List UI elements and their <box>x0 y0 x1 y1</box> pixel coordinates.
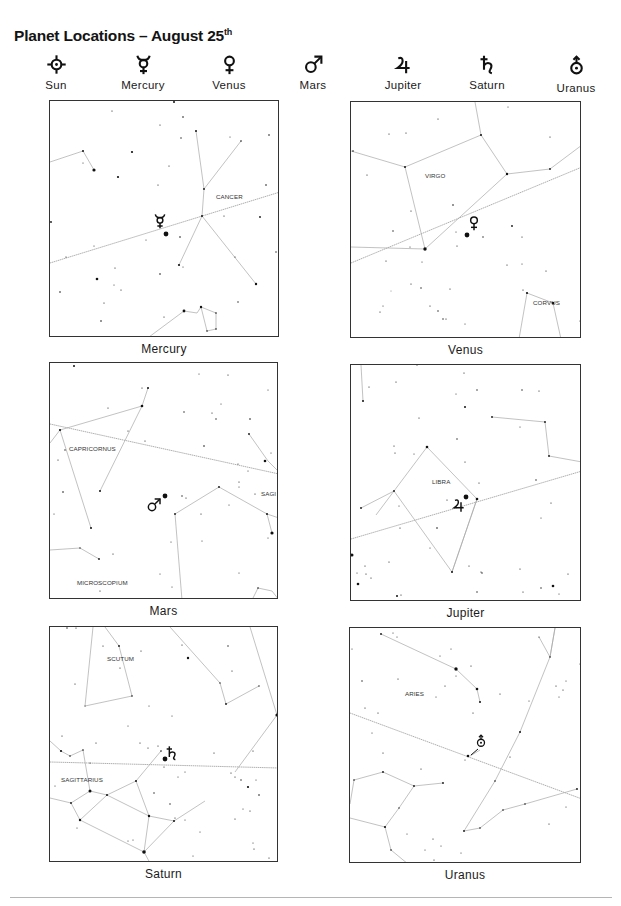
star <box>405 132 406 133</box>
star <box>545 270 546 271</box>
star <box>157 184 158 185</box>
legend-label: Jupiter <box>363 79 443 91</box>
star <box>69 755 71 757</box>
star <box>567 573 568 574</box>
star <box>249 810 250 811</box>
constellation-line <box>85 627 132 706</box>
star <box>153 792 154 793</box>
star <box>225 703 227 705</box>
constellation-line <box>464 628 555 831</box>
star <box>59 291 61 293</box>
star <box>168 165 169 166</box>
star <box>182 116 184 118</box>
star <box>456 245 457 246</box>
star-chart-mercury: CANCER <box>49 100 279 337</box>
star <box>173 101 175 103</box>
planet-position-dot <box>465 233 470 238</box>
star <box>200 513 201 514</box>
star <box>114 285 115 286</box>
star <box>420 287 421 288</box>
uranus-symbol-icon <box>536 55 616 77</box>
star <box>418 417 419 418</box>
star <box>74 683 75 684</box>
star <box>422 262 423 263</box>
star <box>365 573 366 574</box>
star <box>360 507 362 509</box>
constellation-label: CANCER <box>216 193 243 200</box>
star <box>559 594 560 595</box>
star <box>215 312 217 314</box>
star <box>187 657 189 659</box>
star <box>559 697 560 698</box>
star <box>65 256 66 257</box>
star <box>413 785 415 787</box>
star <box>465 760 466 761</box>
constellation-label: MICROSCOPIUM <box>77 579 128 586</box>
star <box>566 807 567 808</box>
star <box>364 565 365 566</box>
star <box>79 819 81 821</box>
star <box>95 742 96 743</box>
star <box>366 174 367 175</box>
legend-item-mercury: Mercury <box>103 54 183 91</box>
star <box>562 689 563 690</box>
constellation-line <box>50 791 90 803</box>
star <box>171 542 172 543</box>
constellation-line <box>235 715 277 772</box>
star <box>185 772 186 773</box>
star <box>50 221 52 223</box>
star <box>202 541 203 542</box>
legend-item-saturn: Saturn <box>447 54 527 91</box>
constellation-line <box>381 634 480 702</box>
star <box>441 846 442 847</box>
star <box>200 832 201 833</box>
star <box>82 150 84 152</box>
star <box>234 776 235 777</box>
star <box>179 236 181 238</box>
star <box>60 750 62 752</box>
star <box>353 779 355 781</box>
legend-item-jupiter: Jupiter <box>363 54 443 91</box>
star <box>384 826 386 828</box>
star <box>432 838 433 839</box>
star <box>96 278 99 281</box>
constellation-line <box>202 216 256 284</box>
constellation-line <box>361 365 363 401</box>
constellation-line <box>50 151 94 170</box>
star <box>470 665 471 666</box>
star <box>508 107 509 108</box>
constellation-line <box>179 216 202 265</box>
star <box>268 390 269 391</box>
star <box>142 850 146 854</box>
star <box>391 291 392 292</box>
constellation-line <box>376 491 394 515</box>
page-title-superscript: th <box>224 27 232 37</box>
star <box>237 301 238 302</box>
star <box>379 311 380 312</box>
star <box>178 264 180 266</box>
star <box>240 140 242 142</box>
star <box>397 678 398 679</box>
star <box>398 807 399 808</box>
legend-label: Mercury <box>103 79 183 91</box>
star <box>476 591 477 592</box>
star <box>98 558 100 560</box>
constellation-label: CORVUS <box>533 299 560 306</box>
legend-label: Mars <box>273 79 353 91</box>
star <box>106 794 108 796</box>
ecliptic-line <box>350 713 581 799</box>
star <box>230 772 231 773</box>
star <box>140 650 141 651</box>
star <box>380 633 382 635</box>
star <box>544 421 546 423</box>
star <box>253 843 254 844</box>
star <box>54 514 55 515</box>
star <box>178 777 179 778</box>
constellation-line <box>350 818 408 863</box>
star <box>414 454 415 455</box>
star <box>183 267 184 268</box>
star <box>499 693 500 694</box>
star <box>64 449 65 450</box>
star <box>270 531 273 534</box>
star <box>390 849 392 851</box>
